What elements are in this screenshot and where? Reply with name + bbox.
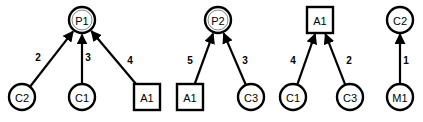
node-label: C2 (393, 15, 407, 27)
node-label: C3 (343, 92, 357, 104)
node-c3: C3 (238, 84, 264, 110)
edge-weight-label: 4 (290, 55, 296, 66)
node-a1: A1 (177, 84, 203, 110)
node-c3: C3 (337, 84, 363, 110)
edge-weight-label: 2 (346, 55, 352, 66)
edge-weight-label: 2 (35, 52, 41, 63)
node-m1: M1 (387, 84, 413, 110)
nodes-layer: P1C2C1A1P2A1C3A1C1C3C2M1 (9, 7, 413, 110)
node-c2: C2 (387, 7, 413, 33)
diagram-canvas: 23453421 P1C2C1A1P2A1C3A1C1C3C2M1 (0, 0, 423, 122)
node-label: A1 (183, 92, 196, 104)
edge-weight-label: 1 (403, 55, 409, 66)
node-label: C1 (286, 92, 300, 104)
node-c1: C1 (280, 84, 306, 110)
node-c1: C1 (69, 84, 95, 110)
edge-arrow (195, 34, 213, 84)
node-label: A1 (313, 15, 326, 27)
edge-arrow (297, 34, 315, 85)
edge-arrow (325, 34, 345, 85)
node-label: A1 (140, 92, 153, 104)
edge-weight-label: 3 (242, 55, 248, 66)
node-label: P2 (211, 15, 224, 27)
node-p1: P1 (69, 7, 95, 33)
node-label: C1 (75, 92, 89, 104)
edge-weight-label: 5 (187, 55, 193, 66)
edge-weight-label: 3 (85, 52, 91, 63)
node-c2: C2 (9, 84, 35, 110)
node-label: C3 (244, 92, 258, 104)
node-label: M1 (392, 92, 407, 104)
node-a1: A1 (134, 84, 160, 110)
node-p2: P2 (205, 7, 231, 33)
edge-weight-label: 4 (127, 55, 133, 66)
node-a1: A1 (307, 7, 333, 33)
node-label: P1 (75, 15, 88, 27)
edges-layer: 23453421 (30, 31, 409, 87)
node-label: C2 (15, 92, 29, 104)
